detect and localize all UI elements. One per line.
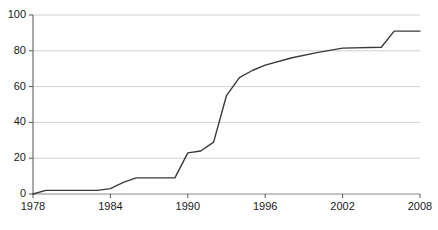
x-axis-tick-label: 2008 — [400, 201, 438, 212]
y-axis-tick-label: 40 — [0, 116, 26, 127]
x-axis-tick-label: 1978 — [13, 201, 53, 212]
data-series-line — [33, 31, 420, 194]
gridlines — [33, 15, 420, 158]
line-chart: 020406080100 197819841990199620022008 — [0, 0, 438, 230]
y-tick-marks — [29, 15, 33, 194]
x-axis-tick-label: 1996 — [245, 201, 285, 212]
axis-lines — [33, 15, 420, 194]
y-axis-tick-label: 60 — [0, 81, 26, 92]
x-axis-tick-label: 2002 — [323, 201, 363, 212]
plot-area — [0, 0, 438, 230]
y-axis-tick-label: 20 — [0, 152, 26, 163]
y-axis-tick-label: 80 — [0, 45, 26, 56]
y-axis-tick-label: 100 — [0, 9, 26, 20]
x-axis-tick-label: 1990 — [168, 201, 208, 212]
y-axis-tick-label: 0 — [0, 188, 26, 199]
x-axis-tick-label: 1984 — [90, 201, 130, 212]
x-tick-marks — [33, 194, 420, 198]
